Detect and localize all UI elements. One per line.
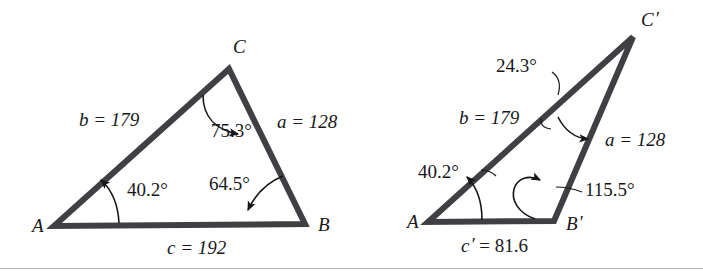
bottom-divider: [0, 268, 703, 269]
vertex-label-right-B: B′: [566, 214, 583, 233]
triangle-drawing-canvas: [0, 0, 703, 277]
side-label-left-a: a = 128: [277, 112, 337, 131]
side-label-right-b: b = 179: [459, 108, 519, 127]
triangle-left-outline: [54, 69, 305, 226]
side-label-right-b-text: b = 179: [459, 107, 519, 128]
vertex-label-left-C: C: [233, 37, 246, 56]
angle-label-right-C: 24.3°: [496, 56, 537, 75]
angle-label-right-A: 40.2°: [418, 162, 459, 181]
triangle-figure: A B C b = 179 a = 128 c = 192 40.2° 75.3…: [0, 0, 703, 277]
vertex-label-right-C-text: C: [641, 9, 654, 30]
side-label-right-a: a = 128: [605, 130, 665, 149]
angle-arc-left-B: [248, 176, 283, 210]
vertex-label-right-A: A: [407, 212, 419, 231]
vertex-label-left-A: A: [32, 216, 44, 235]
vertex-label-right-C-prime: ′: [654, 8, 659, 29]
side-label-left-c-text: c = 192: [167, 237, 226, 258]
vertex-label-left-B: B: [318, 215, 330, 234]
side-label-left-c: c = 192: [167, 238, 226, 257]
side-label-right-c: c′ = 81.6: [461, 236, 528, 255]
angle-label-left-B: 64.5°: [209, 174, 250, 193]
side-label-right-c-prime: ′: [469, 234, 474, 255]
side-label-left-b: b = 179: [79, 110, 139, 129]
angle-label-right-B: 115.5°: [585, 180, 635, 199]
side-label-right-a-text: a = 128: [605, 129, 665, 150]
vertex-label-right-B-text: B: [566, 213, 578, 234]
side-label-right-c-value: = 81.6: [479, 235, 528, 256]
vertex-label-right-C: C′: [641, 10, 659, 29]
vertex-label-right-B-prime: ′: [578, 212, 583, 233]
side-label-left-a-text: a = 128: [277, 111, 337, 132]
angle-label-left-C: 75.3°: [211, 121, 252, 140]
angle-arc-left-A: [101, 180, 119, 223]
angle-label-left-A: 40.2°: [127, 180, 168, 199]
side-label-left-b-text: b = 179: [79, 109, 139, 130]
